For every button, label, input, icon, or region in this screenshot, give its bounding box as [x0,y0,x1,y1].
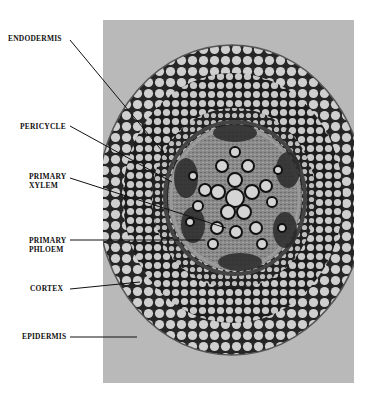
label-pericycle: PERICYCLE [20,122,66,131]
label-text: ENDODERMIS [8,34,62,43]
label-text: CORTEX [30,284,63,293]
label-primary-xylem: PRIMARY XYLEM [29,172,66,190]
label-cortex: CORTEX [30,284,63,293]
label-text: EPIDERMIS [22,332,66,341]
label-text: PERICYCLE [20,122,66,131]
label-epidermis: EPIDERMIS [22,332,66,341]
label-primary-phloem: PRIMARY PHLOEM [29,236,66,254]
label-text: PRIMARY [29,236,66,245]
label-text: XYLEM [29,181,66,190]
label-endodermis: ENDODERMIS [8,34,62,43]
root-cross-section-figure: ENDODERMIS PERICYCLE PRIMARY XYLEM PRIMA… [0,0,370,394]
label-text: PHLOEM [29,245,66,254]
label-text: PRIMARY [29,172,66,181]
